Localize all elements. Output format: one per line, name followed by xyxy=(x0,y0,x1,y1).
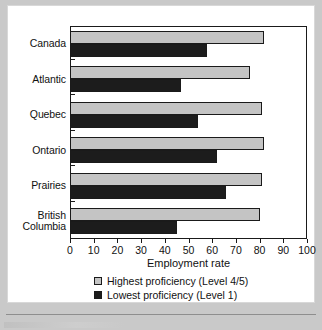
bar xyxy=(70,115,198,128)
bar xyxy=(70,79,181,92)
y-axis-label-canada: Canada xyxy=(8,38,66,49)
x-axis-tick xyxy=(260,239,261,243)
x-axis-tick xyxy=(141,239,142,243)
bar xyxy=(70,221,177,234)
bar-group xyxy=(70,208,307,234)
x-axis-tick xyxy=(307,239,308,243)
x-axis-tick xyxy=(283,239,284,243)
bar xyxy=(70,173,262,186)
bar xyxy=(70,150,217,163)
y-axis-tick xyxy=(70,59,75,60)
x-axis-tick-label: 40 xyxy=(153,244,177,256)
x-axis-tick xyxy=(165,239,166,243)
bar xyxy=(70,208,260,221)
bar xyxy=(70,102,262,115)
x-axis-tick xyxy=(70,239,71,243)
y-axis-label-british-columbia: BritishColumbia xyxy=(8,210,66,232)
bar xyxy=(70,44,207,57)
bar-group xyxy=(70,137,307,163)
footer-artifact xyxy=(4,322,124,328)
x-axis-tick-label: 30 xyxy=(129,244,153,256)
bar-group xyxy=(70,102,307,128)
bar-group xyxy=(70,173,307,199)
x-axis-tick xyxy=(94,239,95,243)
y-axis-tick xyxy=(70,165,75,166)
legend-label-highest-proficiency: Highest proficiency (Level 4/5) xyxy=(107,275,248,287)
chart-legend: Highest proficiency (Level 4/5) Lowest p… xyxy=(94,274,314,302)
y-axis-label-quebec: Quebec xyxy=(8,109,66,120)
x-axis-tick-label: 20 xyxy=(105,244,129,256)
y-axis-tick xyxy=(70,94,75,95)
bar xyxy=(70,137,264,150)
x-axis-tick-label: 60 xyxy=(200,244,224,256)
x-axis-tick-label: 90 xyxy=(271,244,295,256)
footer-divider xyxy=(6,314,316,315)
legend-item-lowest-proficiency: Lowest proficiency (Level 1) xyxy=(94,288,314,301)
bar xyxy=(70,31,264,44)
bar xyxy=(70,186,226,199)
x-axis-tick-label: 80 xyxy=(248,244,272,256)
y-axis-label-atlantic: Atlantic xyxy=(8,74,66,85)
bar xyxy=(70,66,250,79)
page-background: CanadaAtlanticQuebecOntarioPrairiesBriti… xyxy=(0,0,322,330)
x-axis-tick-label: 100 xyxy=(295,244,319,256)
x-axis-tick-label: 0 xyxy=(58,244,82,256)
y-axis-label-prairies: Prairies xyxy=(8,180,66,191)
legend-swatch-lowest-proficiency xyxy=(94,291,102,299)
x-axis-tick xyxy=(212,239,213,243)
legend-swatch-highest-proficiency xyxy=(94,277,102,285)
x-axis-tick-label: 10 xyxy=(82,244,106,256)
y-axis-tick xyxy=(70,201,75,202)
bar-group xyxy=(70,66,307,92)
y-axis-tick xyxy=(70,130,75,131)
x-axis-tick xyxy=(117,239,118,243)
plot-area xyxy=(70,26,307,239)
y-axis-category-labels: CanadaAtlanticQuebecOntarioPrairiesBriti… xyxy=(8,26,66,239)
x-axis-title: Employment rate xyxy=(70,257,307,269)
x-axis-tick-label: 70 xyxy=(224,244,248,256)
legend-item-highest-proficiency: Highest proficiency (Level 4/5) xyxy=(94,274,314,287)
figure-card: CanadaAtlanticQuebecOntarioPrairiesBriti… xyxy=(8,6,314,302)
y-axis-label-ontario: Ontario xyxy=(8,145,66,156)
legend-label-lowest-proficiency: Lowest proficiency (Level 1) xyxy=(107,289,237,301)
bar-group xyxy=(70,31,307,57)
x-axis-tick xyxy=(189,239,190,243)
x-axis-tick-label: 50 xyxy=(177,244,201,256)
x-axis-tick xyxy=(236,239,237,243)
